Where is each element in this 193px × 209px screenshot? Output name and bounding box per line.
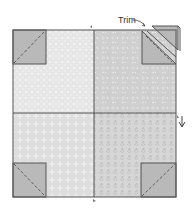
seam-marker-top: [90, 25, 92, 28]
trim-label: Trim: [118, 15, 136, 25]
seam-marker-bottom: [93, 199, 96, 202]
seam-marker-right: [177, 115, 179, 118]
corner-square-top-left: [13, 30, 46, 64]
press-arrow-icon: [179, 116, 185, 127]
quilt-diagram: [0, 0, 193, 209]
corner-square-bottom-right: [141, 163, 176, 197]
quadrant-top-right: [94, 30, 176, 113]
corner-square-bottom-left: [13, 163, 46, 197]
